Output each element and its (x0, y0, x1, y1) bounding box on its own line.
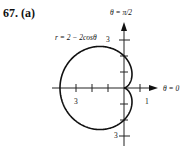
arrow-right-icon (149, 85, 158, 91)
polar-plot (0, 0, 189, 156)
arrow-up-icon (121, 22, 127, 31)
